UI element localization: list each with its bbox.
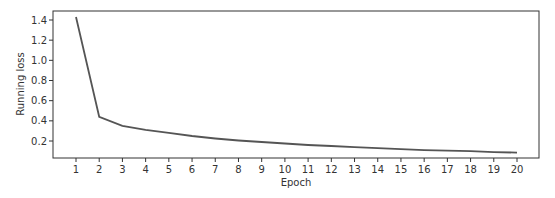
x-axis-label: Epoch xyxy=(281,177,312,188)
y-tick-label: 1.2 xyxy=(31,35,47,46)
x-tick-label: 3 xyxy=(119,164,125,175)
x-tick-label: 15 xyxy=(395,164,408,175)
x-tick-label: 7 xyxy=(212,164,218,175)
x-tick-label: 14 xyxy=(371,164,384,175)
x-tick-label: 11 xyxy=(302,164,315,175)
x-tick-label: 9 xyxy=(258,164,264,175)
x-tick-label: 4 xyxy=(142,164,148,175)
x-tick-label: 6 xyxy=(189,164,195,175)
x-tick-label: 10 xyxy=(279,164,292,175)
x-axis: 1234567891011121314151617181920 xyxy=(73,158,524,175)
y-tick-label: 0.4 xyxy=(31,115,47,126)
x-tick-label: 17 xyxy=(441,164,454,175)
y-tick-label: 1.4 xyxy=(31,15,47,26)
y-tick-label: 0.6 xyxy=(31,95,47,106)
x-tick-label: 20 xyxy=(511,164,524,175)
y-tick-label: 0.2 xyxy=(31,136,47,147)
x-tick-label: 19 xyxy=(487,164,500,175)
y-tick-label: 0.8 xyxy=(31,75,47,86)
y-axis-label: Running loss xyxy=(15,52,26,115)
loss-chart: 0.20.40.60.81.01.21.4 123456789101112131… xyxy=(0,0,555,198)
x-tick-label: 13 xyxy=(348,164,361,175)
x-tick-label: 16 xyxy=(418,164,431,175)
x-tick-label: 2 xyxy=(96,164,102,175)
loss-line xyxy=(76,17,517,153)
x-tick-label: 18 xyxy=(464,164,477,175)
x-tick-label: 8 xyxy=(235,164,241,175)
x-tick-label: 5 xyxy=(166,164,172,175)
x-tick-label: 1 xyxy=(73,164,79,175)
x-tick-label: 12 xyxy=(325,164,338,175)
y-tick-label: 1.0 xyxy=(31,55,47,66)
y-axis: 0.20.40.60.81.01.21.4 xyxy=(31,15,53,147)
plot-frame xyxy=(53,11,539,158)
